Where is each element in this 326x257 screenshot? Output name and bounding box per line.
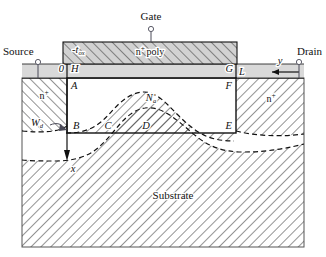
x-axis-label: x [70, 163, 76, 174]
poly-label-sup: + [141, 44, 145, 53]
node-label-F: F [225, 80, 233, 91]
node-label-H: H [70, 63, 80, 74]
drain-hatch-fill [236, 78, 304, 136]
node-label-E: E [225, 120, 233, 131]
node-label-B: B [73, 120, 80, 131]
gate-label: Gate [141, 10, 162, 22]
drain-label-sup: + [271, 91, 275, 100]
node-label-C: C [104, 120, 112, 131]
node-label-A: A [70, 80, 78, 91]
mosfet-cross-section-figure: Source Gate Drain n+poly -tox 0 H G L y … [0, 0, 326, 257]
source-label: Source [3, 45, 34, 57]
mosfet-diagram-canvas: Source Gate Drain n+poly -tox 0 H G L y … [0, 0, 326, 257]
origin-label: 0 [59, 63, 65, 74]
node-label-G: G [225, 63, 233, 74]
poly-label-tail: poly [146, 46, 164, 57]
tox-sub: ox [78, 49, 84, 56]
poly-region-label: n+poly [136, 44, 165, 58]
y-axis-label: y [277, 55, 283, 66]
drain-terminal-node[interactable] [296, 59, 301, 64]
substrate-label: Substrate [153, 189, 194, 201]
source-label-sup: + [44, 88, 48, 97]
node-label-D: D [141, 120, 150, 131]
na-sub: a [153, 97, 156, 104]
oxide-layer [22, 64, 304, 78]
channel-length-label: L [238, 66, 245, 77]
drain-label: Drain [297, 45, 323, 57]
drain-diffusion-region [236, 78, 304, 136]
source-terminal-node[interactable] [35, 59, 40, 64]
gate-terminal-node[interactable] [148, 26, 153, 31]
